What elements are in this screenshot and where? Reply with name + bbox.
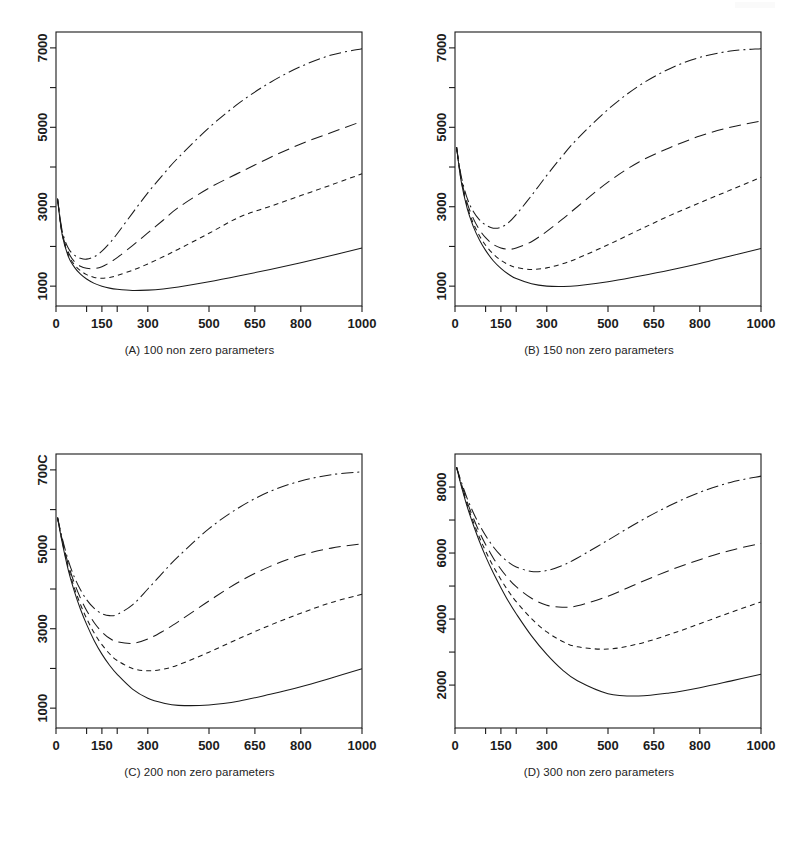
svg-text:650: 650 — [643, 738, 665, 753]
panel-a-caption: (A) 100 non zero parameters — [0, 344, 399, 356]
svg-text:7000: 7000 — [435, 33, 450, 62]
svg-text:7000: 7000 — [36, 33, 51, 62]
svg-text:1000: 1000 — [747, 316, 776, 331]
svg-text:1000: 1000 — [348, 316, 377, 331]
panel-c: 01503005006508001000100030005000700C (C)… — [0, 422, 399, 844]
panel-d-plot: 015030050065080010002000400060008000 — [399, 422, 799, 844]
svg-text:150: 150 — [490, 316, 512, 331]
panel-d: 015030050065080010002000400060008000 (D)… — [399, 422, 799, 844]
svg-text:1000: 1000 — [36, 694, 51, 723]
svg-text:0: 0 — [52, 316, 59, 331]
svg-text:500: 500 — [597, 316, 619, 331]
svg-text:3000: 3000 — [36, 614, 51, 643]
svg-text:8000: 8000 — [435, 473, 450, 502]
svg-text:800: 800 — [290, 738, 312, 753]
svg-text:4000: 4000 — [435, 605, 450, 634]
panel-a-plot: 015030050065080010001000300050007000 — [0, 0, 399, 422]
svg-text:300: 300 — [536, 738, 558, 753]
svg-text:5000: 5000 — [36, 535, 51, 564]
svg-text:800: 800 — [689, 316, 711, 331]
svg-text:300: 300 — [137, 316, 159, 331]
svg-text:650: 650 — [643, 316, 665, 331]
svg-text:700C: 700C — [36, 454, 51, 486]
panel-d-caption: (D) 300 non zero parameters — [399, 766, 799, 778]
svg-text:3000: 3000 — [36, 192, 51, 221]
svg-text:800: 800 — [290, 316, 312, 331]
panel-b-caption: (B) 150 non zero parameters — [399, 344, 799, 356]
svg-text:1000: 1000 — [435, 272, 450, 301]
svg-text:5000: 5000 — [36, 113, 51, 142]
svg-text:500: 500 — [198, 738, 220, 753]
svg-text:800: 800 — [689, 738, 711, 753]
svg-text:150: 150 — [91, 738, 113, 753]
svg-text:1000: 1000 — [747, 738, 776, 753]
svg-text:1000: 1000 — [348, 738, 377, 753]
four-panel-figure: 015030050065080010001000300050007000 (A)… — [0, 0, 799, 844]
panel-a: 015030050065080010001000300050007000 (A)… — [0, 0, 399, 422]
svg-text:6000: 6000 — [435, 539, 450, 568]
svg-text:3000: 3000 — [435, 192, 450, 221]
panel-c-plot: 01503005006508001000100030005000700C — [0, 422, 399, 844]
svg-text:300: 300 — [137, 738, 159, 753]
panel-b: 015030050065080010001000300050007000 (B)… — [399, 0, 799, 422]
scan-artifact-top-right — [735, 2, 775, 8]
svg-text:150: 150 — [490, 738, 512, 753]
svg-text:0: 0 — [451, 738, 458, 753]
svg-text:500: 500 — [198, 316, 220, 331]
svg-text:0: 0 — [52, 738, 59, 753]
svg-text:2000: 2000 — [435, 671, 450, 700]
panel-c-caption: (C) 200 non zero parameters — [0, 766, 399, 778]
panel-b-plot: 015030050065080010001000300050007000 — [399, 0, 799, 422]
svg-text:650: 650 — [244, 738, 266, 753]
svg-text:5000: 5000 — [435, 113, 450, 142]
svg-text:0: 0 — [451, 316, 458, 331]
svg-text:650: 650 — [244, 316, 266, 331]
svg-text:1000: 1000 — [36, 272, 51, 301]
svg-text:150: 150 — [91, 316, 113, 331]
svg-text:500: 500 — [597, 738, 619, 753]
svg-text:300: 300 — [536, 316, 558, 331]
